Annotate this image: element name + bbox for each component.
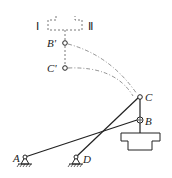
label-A: A bbox=[12, 152, 20, 164]
label-C-prime: C' bbox=[47, 62, 57, 74]
joint-C bbox=[138, 95, 143, 100]
linkage-diagram: Ⅰ Ⅱ B' C' C B A bbox=[0, 0, 172, 178]
label-B: B bbox=[145, 115, 152, 127]
joint-B-prime bbox=[63, 41, 68, 46]
diagram-canvas: Ⅰ Ⅱ B' C' C B A bbox=[0, 0, 172, 178]
joint-B-inner bbox=[139, 119, 141, 121]
label-position-II: Ⅱ bbox=[88, 20, 93, 32]
label-B-prime: B' bbox=[47, 37, 57, 49]
joint-C-prime bbox=[63, 66, 68, 71]
platform bbox=[121, 133, 160, 150]
label-C: C bbox=[145, 91, 153, 103]
label-position-I: Ⅰ bbox=[36, 20, 39, 32]
label-D: D bbox=[82, 153, 91, 165]
ground-pivot-D bbox=[68, 155, 83, 167]
arc-B-path bbox=[68, 44, 137, 94]
arc-C-path bbox=[68, 68, 133, 96]
